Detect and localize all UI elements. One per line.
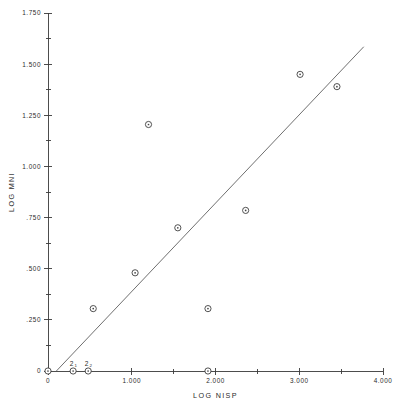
regression-line (56, 47, 363, 371)
data-point-marker (70, 368, 76, 374)
y-tick-label: .750 (26, 214, 41, 221)
overlap-count-label: 2 (85, 360, 89, 367)
overlap-count-labels: 2122 (70, 360, 93, 369)
y-tick-label: 1.250 (22, 112, 41, 119)
x-tick-label: 4.000 (374, 377, 393, 384)
data-point-marker (45, 368, 51, 374)
data-point-marker (334, 84, 340, 90)
data-point-marker (85, 368, 91, 374)
plot-canvas: 0.250.500.7501.0001.2501.5001.750 01.000… (0, 0, 396, 403)
y-tick-label: .500 (26, 265, 41, 272)
y-axis-title: LOG MNI (7, 172, 16, 212)
y-tick-label: .250 (26, 316, 41, 323)
axis-titles: LOG NISPLOG MNI (7, 172, 238, 400)
data-point-marker (175, 225, 181, 231)
y-tick-label: 1.000 (22, 163, 41, 170)
data-point-marker (205, 306, 211, 312)
y-tick-label: 1.500 (22, 61, 41, 68)
x-tick-label: 0 (46, 377, 50, 384)
overlap-count-label: 2 (70, 360, 74, 367)
overlap-count-subscript: 1 (75, 363, 78, 368)
data-point-marker (243, 207, 249, 213)
scatter-plot-figure: 0.250.500.7501.0001.2501.5001.750 01.000… (0, 0, 396, 403)
data-point-marker (205, 368, 211, 374)
x-axis: 01.0002.0003.0004.000 (46, 368, 392, 385)
y-axis: 0.250.500.7501.0001.2501.5001.750 (22, 9, 52, 374)
data-point-marker (145, 121, 151, 127)
data-point-marker (90, 306, 96, 312)
y-tick-label: 1.750 (22, 9, 41, 16)
overlap-count-subscript: 2 (90, 363, 93, 368)
data-point-marker (132, 270, 138, 276)
data-points (45, 71, 340, 374)
x-axis-title: LOG NISP (193, 391, 238, 400)
y-tick-label: 0 (37, 367, 41, 374)
x-tick-label: 1.000 (122, 377, 141, 384)
x-tick-label: 3.000 (290, 377, 309, 384)
x-tick-label: 2.000 (206, 377, 225, 384)
data-point-marker (297, 71, 303, 77)
